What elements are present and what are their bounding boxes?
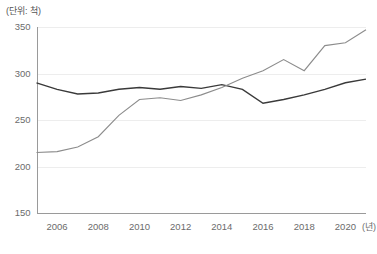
y-tick-label: 150 bbox=[15, 207, 31, 218]
y-tick-label: 300 bbox=[15, 68, 31, 79]
x-tick-label: 2014 bbox=[211, 221, 232, 232]
chart-container: (단위: 척) 150200250300350 2006200820102012… bbox=[0, 0, 377, 254]
x-tick-label: 2006 bbox=[47, 221, 68, 232]
y-tick-labels: 150200250300350 bbox=[15, 21, 31, 218]
data-series bbox=[37, 30, 367, 153]
x-tick-labels: 20062008201020122014201620182020(년) bbox=[47, 221, 376, 232]
x-tick-label: 2008 bbox=[88, 221, 109, 232]
source-note bbox=[196, 249, 377, 254]
x-tick-label: 2020 bbox=[335, 221, 356, 232]
y-tick-label: 250 bbox=[15, 114, 31, 125]
y-tick-label: 200 bbox=[15, 161, 31, 172]
y-tick-label: 350 bbox=[15, 21, 31, 32]
x-tick-label: 2018 bbox=[294, 221, 315, 232]
series-line-series-dark bbox=[37, 79, 367, 103]
line-chart-plot: 150200250300350 200620082010201220142016… bbox=[0, 0, 377, 254]
x-axis-unit-label: (년) bbox=[362, 222, 376, 232]
x-tick-label: 2012 bbox=[170, 221, 191, 232]
x-tick-label: 2016 bbox=[252, 221, 273, 232]
x-tick-label: 2010 bbox=[129, 221, 150, 232]
